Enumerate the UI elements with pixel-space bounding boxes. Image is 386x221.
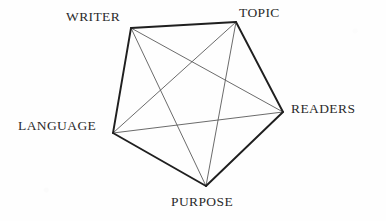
vertex-label-purpose: PURPOSE: [171, 195, 233, 209]
edge-readers-language: [113, 112, 283, 133]
edge-topic-language: [113, 22, 236, 133]
vertex-label-readers: READERS: [291, 102, 355, 116]
diagonal-edges-group: [113, 22, 283, 186]
vertex-label-writer: WRITER: [66, 10, 120, 24]
vertex-label-language: LANGUAGE: [18, 119, 96, 133]
edge-language-writer: [113, 28, 131, 133]
diagram-canvas: WRITER TOPIC READERS PURPOSE LANGUAGE: [0, 0, 386, 221]
vertex-label-topic: TOPIC: [239, 6, 280, 20]
edge-writer-topic: [131, 22, 236, 28]
perimeter-edges-group: [113, 22, 283, 186]
edge-purpose-language: [113, 133, 206, 186]
